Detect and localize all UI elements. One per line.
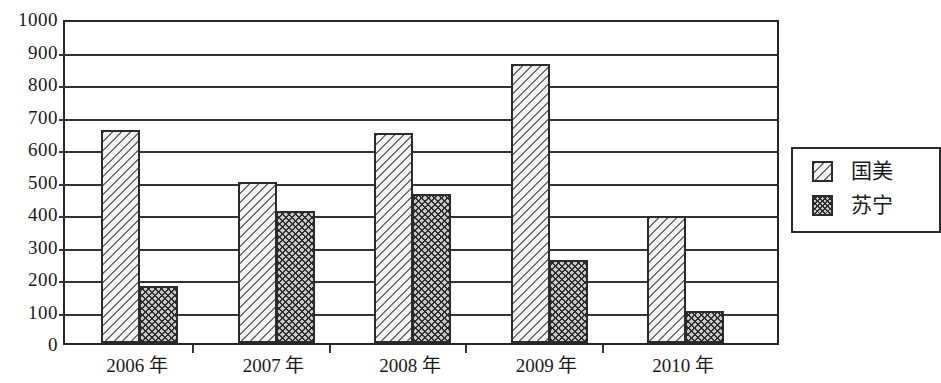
bar-guomei <box>238 182 277 343</box>
y-axis-tick-label: 200 <box>2 270 58 289</box>
bar-suning <box>412 194 451 344</box>
x-axis-tick-label: 2008 年 <box>350 355 470 377</box>
x-axis-tick-mark <box>602 345 604 353</box>
plot-area <box>63 20 779 345</box>
bar-guomei <box>101 130 140 343</box>
legend-item-suning[interactable]: 苏宁 <box>812 195 893 216</box>
x-axis-tick-mark <box>329 345 331 353</box>
y-axis-tick-label: 600 <box>2 140 58 159</box>
y-axis-tick-label: 900 <box>2 43 58 62</box>
legend-item-guomei[interactable]: 国美 <box>812 161 893 182</box>
x-axis-tick-label: 2006 年 <box>77 355 197 377</box>
y-axis-tick-label: 1000 <box>2 10 58 29</box>
bar-guomei <box>647 216 686 343</box>
y-axis: 10009008007006005004003002001000 <box>0 0 58 383</box>
y-axis-tick-label: 300 <box>2 238 58 257</box>
bar-guomei <box>374 133 413 343</box>
y-axis-tick-label: 700 <box>2 108 58 127</box>
bars-layer <box>65 22 777 343</box>
y-axis-tick-label: 500 <box>2 173 58 192</box>
legend-label-suning: 苏宁 <box>851 195 893 216</box>
legend-label-guomei: 国美 <box>851 161 893 182</box>
bar-suning <box>139 286 178 343</box>
x-axis-tick-label: 2009 年 <box>487 355 607 377</box>
legend-swatch-icon-guomei <box>812 161 833 182</box>
y-axis-tick-label: 0 <box>2 335 58 354</box>
y-axis-tick-label: 100 <box>2 303 58 322</box>
x-axis-tick-mark <box>192 345 194 353</box>
y-axis-tick-label: 400 <box>2 205 58 224</box>
x-axis-tick-label: 2007 年 <box>214 355 334 377</box>
x-axis-tick-mark <box>465 345 467 353</box>
y-axis-tick-label: 800 <box>2 75 58 94</box>
bar-guomei <box>511 64 550 344</box>
legend-swatch-icon-suning <box>812 195 833 216</box>
bar-suning <box>685 311 724 344</box>
bar-suning <box>276 211 315 343</box>
x-axis-tick-label: 2010 年 <box>623 355 743 377</box>
bar-suning <box>549 260 588 343</box>
legend: 国美 苏宁 <box>791 147 941 233</box>
